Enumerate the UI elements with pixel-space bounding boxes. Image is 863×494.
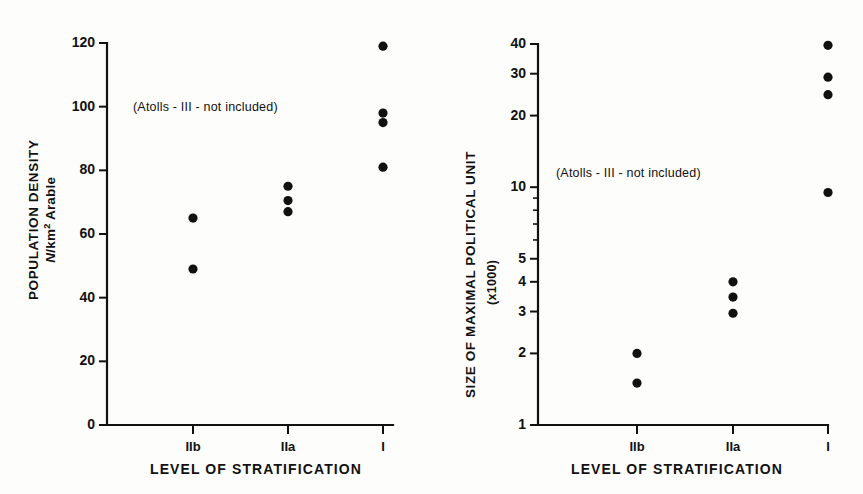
panel-size-of-maximal-political-unit: SIZE OF MAXIMAL POLITICAL UNIT (x1000) (…: [431, 0, 863, 494]
x-tick-label-IIa: IIa: [258, 439, 318, 454]
data-point: [728, 277, 737, 286]
y-axis-title-units-arable: Arable: [43, 177, 58, 224]
data-point: [378, 163, 387, 172]
x-tick-label-IIb: IIb: [607, 439, 667, 454]
data-point: [188, 264, 197, 273]
data-point: [283, 196, 292, 205]
data-point: [823, 73, 832, 82]
data-point: [823, 188, 832, 197]
x-tick-label-I: I: [353, 439, 413, 454]
data-point: [823, 41, 832, 50]
y-tick-label-60: 60: [49, 225, 95, 241]
data-point: [823, 90, 832, 99]
y-tick-label-2: 2: [480, 344, 526, 360]
data-point: [632, 349, 641, 358]
y-tick-label-100: 100: [49, 98, 95, 114]
y-tick-label-10: 10: [480, 178, 526, 194]
x-tick-label-I: I: [798, 439, 858, 454]
y-tick-label-40: 40: [49, 289, 95, 305]
y-axis-title-line1: POPULATION DENSITY: [26, 139, 41, 300]
data-point: [283, 207, 292, 216]
y-tick-label-20: 20: [49, 352, 95, 368]
y-tick-label-4: 4: [480, 273, 526, 289]
x-tick-label-IIa: IIa: [703, 439, 763, 454]
y-tick-label-30: 30: [480, 65, 526, 81]
x-axis-title-level-of-stratification: LEVEL OF STRATIFICATION: [527, 461, 827, 477]
panel-population-density: POPULATION DENSITY N/km2 Arable (Atolls …: [0, 0, 432, 494]
x-tick-label-IIb: IIb: [163, 439, 223, 454]
data-point: [283, 182, 292, 191]
y-tick-label-1: 1: [480, 416, 526, 432]
annotation-atolls-excluded: (Atolls - III - not included): [556, 166, 701, 180]
y-tick-label-20: 20: [480, 107, 526, 123]
data-point: [378, 118, 387, 127]
data-point: [632, 379, 641, 388]
y-axis-title-line1: SIZE OF MAXIMAL POLITICAL UNIT: [463, 151, 478, 398]
annotation-atolls-excluded: (Atolls - III - not included): [133, 100, 278, 114]
y-tick-label-5: 5: [480, 250, 526, 266]
data-point: [378, 42, 387, 51]
data-point: [728, 309, 737, 318]
data-point: [728, 292, 737, 301]
y-tick-label-3: 3: [480, 303, 526, 319]
y-axis-title-size-of-maximal-political-unit: SIZE OF MAXIMAL POLITICAL UNIT: [463, 151, 478, 398]
y-axis-title-line2: N/km2 Arable: [43, 177, 58, 263]
x-axis-title-level-of-stratification: LEVEL OF STRATIFICATION: [106, 461, 406, 477]
data-point: [378, 108, 387, 117]
y-tick-label-40: 40: [480, 35, 526, 51]
y-tick-label-80: 80: [49, 161, 95, 177]
figure-two-panel-scatter: POPULATION DENSITY N/km2 Arable (Atolls …: [0, 0, 863, 494]
y-tick-label-120: 120: [49, 34, 95, 50]
data-point: [188, 213, 197, 222]
y-axis-title-units-n: N: [43, 253, 58, 263]
y-tick-label-0: 0: [49, 416, 95, 432]
